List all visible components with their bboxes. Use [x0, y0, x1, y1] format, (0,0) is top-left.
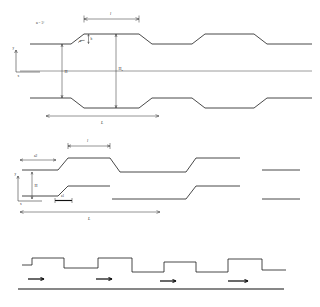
- dimension-L-top: L: [46, 115, 159, 125]
- wave-length-label-middle: l: [87, 138, 89, 143]
- top-panel: y x α h α = 5°: [13, 11, 313, 125]
- flow-arrow-3: [160, 280, 176, 283]
- dimension-L-middle: L: [20, 211, 160, 221]
- half-height-label-top: H: [65, 69, 68, 74]
- wave-length-label-top: l: [110, 11, 112, 16]
- bottom-panel: [18, 258, 286, 289]
- angle-note-label: α = 5°: [36, 21, 45, 25]
- lower-wall-profile-top: [30, 98, 312, 108]
- technical-figure: y x α h α = 5°: [0, 0, 320, 307]
- axis-y-label-middle: y: [15, 172, 17, 176]
- step-height-label: h: [91, 37, 93, 41]
- middle-panel: y x a2 a1: [15, 138, 301, 221]
- total-length-label-top: L: [100, 120, 104, 125]
- amplitude-lower-label: a1: [61, 194, 65, 198]
- flow-arrow-4: [228, 280, 248, 283]
- axis-x-label-top: x: [18, 74, 20, 78]
- angle-symbol-label: α: [80, 39, 82, 43]
- ribbed-surface-profile: [22, 258, 286, 272]
- height-label-middle: H: [35, 183, 38, 188]
- coordinate-axes-top: y x: [13, 46, 41, 78]
- dimension-H-top: H: [61, 44, 68, 98]
- figure-root: y x α h α = 5°: [0, 0, 320, 307]
- dimension-l-middle: l: [68, 138, 110, 149]
- coordinate-axes-middle: y x: [15, 172, 43, 206]
- flow-arrow-2: [96, 278, 112, 281]
- angle-marker-alpha: α h: [78, 35, 93, 44]
- axis-x-label-middle: x: [20, 202, 22, 206]
- dimension-H-middle: H: [31, 172, 37, 199]
- dimension-a2-middle: a2: [20, 154, 56, 161]
- amplitude-upper-label: a2: [34, 154, 38, 158]
- flow-arrow-1: [28, 278, 44, 281]
- dimension-l-top: l: [84, 11, 139, 23]
- total-length-label-middle: L: [87, 216, 91, 221]
- lower-wall-segment-mid-middle: [112, 186, 240, 199]
- dimension-a1-middle: a1: [55, 194, 72, 203]
- upper-wall-profile-top: [30, 34, 312, 44]
- axis-y-label-top: y: [13, 46, 15, 50]
